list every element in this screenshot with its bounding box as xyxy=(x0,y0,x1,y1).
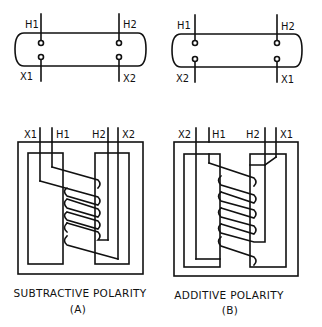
core-left-leg xyxy=(184,154,220,267)
caption-a-sub: (A) xyxy=(70,303,86,315)
terminal-x2 xyxy=(193,57,198,62)
core-diagram-a: X1 H1 H2 X2 SUBTRACTIVE POLARITY (A) xyxy=(14,128,147,315)
terminal-h1 xyxy=(193,41,198,46)
terminal-x2 xyxy=(117,55,122,60)
core-outer xyxy=(174,142,298,276)
label-x2: X2 xyxy=(123,72,136,85)
bushing-diagram-a: H1 H2 X1 X2 xyxy=(15,14,146,85)
tank-outline xyxy=(172,34,302,67)
label-h2: H2 xyxy=(92,128,106,141)
label-h1: H1 xyxy=(177,19,191,32)
core-right-leg xyxy=(95,153,129,264)
label-h2: H2 xyxy=(281,20,295,33)
label-x1: X1 xyxy=(24,128,37,141)
label-h2: H2 xyxy=(246,128,260,141)
label-h1: H1 xyxy=(25,18,39,31)
core-left-leg xyxy=(28,153,63,264)
label-h1: H1 xyxy=(212,128,226,141)
label-x2: X2 xyxy=(178,128,191,141)
caption-b-sub: (B) xyxy=(222,304,238,316)
terminal-h2 xyxy=(117,41,122,46)
label-x1: X1 xyxy=(281,73,294,86)
label-x1: X1 xyxy=(280,128,293,141)
transformer-polarity-diagram: H1 H2 X1 X2 H1 H2 X2 X1 xyxy=(0,0,322,327)
tank-outline xyxy=(15,33,146,66)
terminal-x1 xyxy=(275,57,280,62)
label-h2: H2 xyxy=(123,18,137,31)
label-h1: H1 xyxy=(56,128,70,141)
terminal-h1 xyxy=(39,41,44,46)
label-x2: X2 xyxy=(176,72,189,85)
caption-a: SUBTRACTIVE POLARITY xyxy=(14,287,147,299)
core-diagram-b: X2 H1 H2 X1 ADDITIVE POLARITY (B) xyxy=(174,128,298,316)
core-outer xyxy=(18,142,143,274)
bushing-diagram-b: H1 H2 X2 X1 xyxy=(172,15,302,86)
caption-b: ADDITIVE POLARITY xyxy=(174,289,284,301)
terminal-h2 xyxy=(275,41,280,46)
label-x2: X2 xyxy=(122,128,135,141)
terminal-x1 xyxy=(39,55,44,60)
label-x1: X1 xyxy=(20,70,33,83)
